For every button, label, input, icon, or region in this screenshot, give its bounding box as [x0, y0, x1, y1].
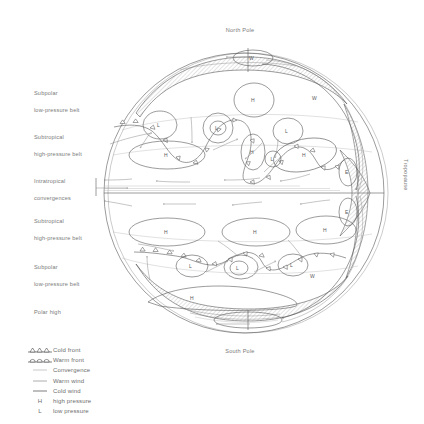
legend-label: Cold wind	[53, 388, 81, 394]
cyclone-south-center: L	[224, 255, 258, 279]
high-pressure-glyph: H	[302, 152, 306, 158]
legend-item-high-pressure: H high pressure	[27, 396, 91, 406]
anticyclone-south-1: H	[129, 218, 205, 246]
anticyclone-south-3: H	[296, 216, 356, 244]
legend-item-cold-front: Cold front	[27, 345, 91, 355]
westerlies-glyph: W	[310, 273, 315, 279]
low-pressure-glyph: L	[271, 156, 274, 162]
east-limb-hatch	[340, 104, 370, 278]
latitude-guides	[113, 114, 372, 273]
easterlies-glyph: E	[345, 209, 349, 215]
legend-item-warm-wind: Warm wind	[27, 376, 91, 386]
convergence-line-icon	[27, 365, 53, 375]
warm-front-icon	[27, 355, 53, 365]
cold-wind-line-icon	[27, 386, 53, 396]
low-pressure-glyph: L	[189, 263, 192, 269]
legend: Cold front Warm front Convergence Warm w…	[27, 345, 91, 416]
low-pressure-glyph: L	[157, 122, 160, 128]
legend-label: Warm front	[53, 357, 84, 363]
legend-label: low pressure	[53, 408, 89, 414]
legend-label: high pressure	[53, 398, 91, 404]
westerlies-glyph: W	[312, 95, 317, 101]
cyclone-south-east: L	[278, 254, 308, 276]
cyclone-north-west: L	[143, 111, 177, 139]
high-pressure-glyph: H	[164, 229, 168, 235]
warm-wind-line-icon	[27, 376, 53, 386]
high-pressure-glyph: H	[323, 227, 327, 233]
high-pressure-glyph: H	[27, 396, 53, 406]
legend-item-low-pressure: L low pressure	[27, 406, 91, 416]
legend-item-cold-wind: Cold wind	[27, 386, 91, 396]
legend-label: Warm wind	[53, 378, 84, 384]
high-pressure-glyph: H	[253, 229, 257, 235]
anticyclone-north-1: H	[234, 83, 274, 117]
legend-item-warm-front: Warm front	[27, 355, 91, 365]
high-pressure-glyph: H	[251, 97, 255, 103]
low-pressure-glyph: L	[27, 406, 53, 416]
wind-arrows-south	[104, 200, 330, 280]
anticyclone-north-3: H	[129, 141, 205, 169]
low-pressure-glyph: L	[236, 265, 239, 271]
westerlies-glyph: W	[249, 55, 254, 61]
cyclone-south-west: L	[176, 255, 208, 277]
low-pressure-glyph: L	[290, 262, 293, 268]
legend-label: Convergence	[53, 367, 90, 373]
high-pressure-glyph: H	[164, 152, 168, 158]
high-pressure-glyph: H	[190, 295, 194, 301]
cold-front-icon	[27, 345, 53, 355]
legend-item-convergence: Convergence	[27, 365, 91, 375]
low-pressure-glyph: L	[285, 128, 288, 134]
anticyclone-north-4: H	[270, 133, 339, 178]
legend-label: Cold front	[53, 347, 81, 353]
low-pressure-glyph: L	[215, 125, 218, 131]
